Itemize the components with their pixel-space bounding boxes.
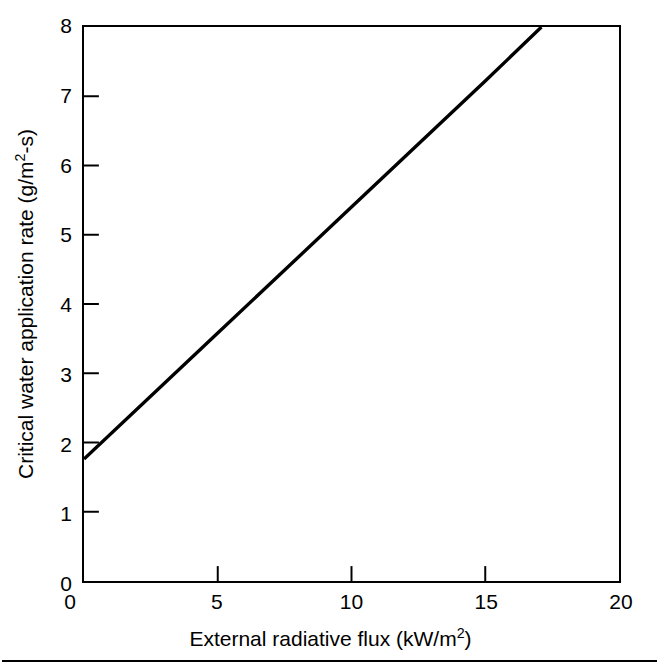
y-tick-label-2: 2 [60,433,72,454]
x-tick-label-0: 0 [64,591,76,612]
x-axis-title-after: ) [465,627,472,650]
y-tick-label-1: 1 [60,503,72,524]
figure-container: 0 1 2 3 4 5 6 7 8 [0,0,661,671]
x-tick-label-15: 15 [475,591,498,612]
y-axis-title-before: Critical water application rate (g/m [14,162,37,479]
x-tick-label-10: 10 [340,591,363,612]
y-tick-label-6: 6 [60,154,72,175]
data-series-line [84,27,541,459]
x-axis-title-before: External radiative flux (kW/m [189,627,456,650]
figure-bottom-rule [2,660,657,662]
y-tick-label-3: 3 [60,363,72,384]
x-axis-ticks [218,566,486,581]
y-tick-label-5: 5 [60,224,72,245]
y-tick-label-8: 8 [60,15,72,36]
y-axis-title: Critical water application rate (g/m2-s) [14,25,50,583]
x-axis-tick-labels: 0 5 10 15 20 [0,591,661,617]
x-tick-label-5: 5 [211,591,223,612]
y-tick-label-7: 7 [60,84,72,105]
y-tick-label-4: 4 [60,294,72,315]
plot-area [82,25,621,583]
y-axis-title-superscript: 2 [12,154,28,162]
x-axis-title-superscript: 2 [457,625,465,641]
y-axis-title-after: -s) [14,129,37,154]
plot-svg [84,27,619,581]
x-tick-label-20: 20 [609,591,632,612]
x-axis-title: External radiative flux (kW/m2) [0,627,661,651]
